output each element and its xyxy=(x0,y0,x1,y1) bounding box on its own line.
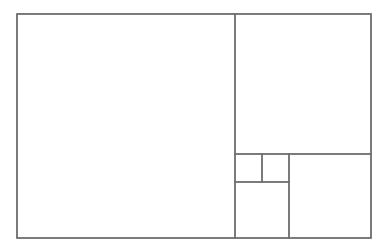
fibonacci-tiling-diagram xyxy=(0,0,392,251)
square-small-a xyxy=(235,154,262,182)
square-large-left xyxy=(17,14,235,238)
square-small-b xyxy=(262,154,289,182)
square-bottom-middle xyxy=(235,182,289,238)
tiles-group xyxy=(17,14,371,238)
outer-rectangle xyxy=(17,14,371,238)
square-top-right xyxy=(235,14,371,154)
square-bottom-right xyxy=(289,154,371,238)
